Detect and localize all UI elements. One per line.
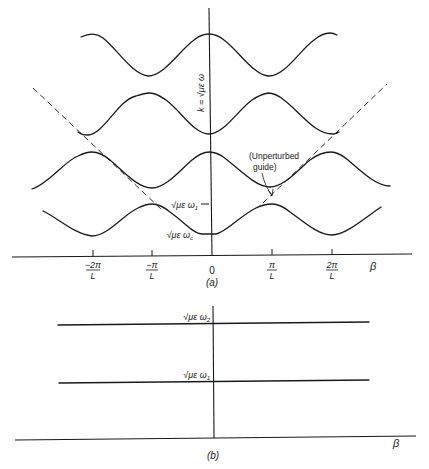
svg-text:L: L bbox=[90, 271, 95, 281]
band-3-curve bbox=[78, 93, 339, 135]
level-omega-1-label: √με ω1 bbox=[183, 370, 210, 381]
panel-a-y-label: k = √με ω bbox=[196, 74, 206, 112]
unperturbed-guide-annotation: (Unperturbed guide) bbox=[249, 151, 299, 196]
svg-text:√με ω1: √με ω1 bbox=[171, 200, 198, 211]
svg-text:0: 0 bbox=[209, 265, 215, 276]
panel-b-x-axis bbox=[15, 436, 416, 440]
light-line-left bbox=[33, 88, 162, 210]
panel-b-y-axis bbox=[213, 306, 214, 438]
svg-text:L: L bbox=[149, 271, 154, 281]
tick-label-minus-pi: −π L bbox=[146, 260, 159, 281]
svg-text:−2π: −2π bbox=[85, 260, 102, 270]
panel-b: √με ω2 √με ω1 β (b) bbox=[15, 306, 416, 461]
svg-text:L: L bbox=[269, 271, 274, 281]
svg-text:π: π bbox=[269, 260, 276, 270]
light-line-right bbox=[263, 84, 387, 203]
tick-label-zero: 0 bbox=[209, 265, 215, 276]
panel-a: −2π L −π L 0 π L 2π L β k = √με ω √με ω1 bbox=[12, 8, 412, 288]
tick-label-minus-2pi: −2π L bbox=[85, 260, 102, 281]
svg-text:2π: 2π bbox=[325, 260, 338, 270]
panel-b-caption: (b) bbox=[207, 450, 219, 461]
panel-a-caption: (a) bbox=[206, 277, 218, 288]
svg-text:L: L bbox=[329, 271, 334, 281]
svg-text:(Unperturbed: (Unperturbed bbox=[249, 151, 299, 161]
svg-text:−π: −π bbox=[146, 260, 158, 270]
dispersion-diagram: −2π L −π L 0 π L 2π L β k = √με ω √με ω1 bbox=[0, 0, 429, 469]
tick-label-pi: π L bbox=[267, 260, 277, 281]
marker-omega-1: √με ω1 bbox=[171, 200, 209, 211]
panel-a-x-label: β bbox=[369, 260, 377, 272]
tick-label-2pi: 2π L bbox=[325, 260, 338, 281]
marker-omega-c: √με ωc bbox=[167, 230, 193, 241]
panel-a-y-axis bbox=[209, 8, 212, 256]
level-omega-2-label: √με ω2 bbox=[183, 312, 210, 323]
panel-b-x-label: β bbox=[392, 437, 400, 449]
svg-text:√με ωc: √με ωc bbox=[167, 230, 193, 241]
svg-text:guide): guide) bbox=[253, 162, 277, 172]
